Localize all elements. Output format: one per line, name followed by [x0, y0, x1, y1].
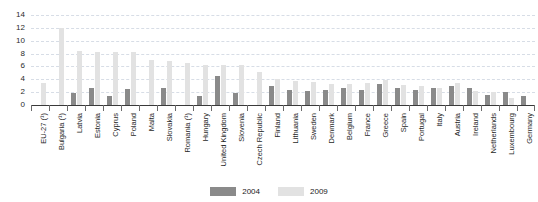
legend-item-2004[interactable]: 2004: [210, 187, 260, 196]
x-tick-label: Spain: [400, 113, 408, 132]
bar-2009: [185, 63, 190, 105]
legend-swatch-2004: [210, 187, 236, 196]
bar-2009: [401, 85, 406, 105]
bar-2009: [383, 80, 388, 105]
bar-2004: [449, 86, 454, 105]
x-tick-label: Denmark: [328, 113, 336, 143]
bar-group: [391, 15, 409, 105]
x-tick-mark: [211, 105, 212, 111]
x-axis-cell: Estonia: [85, 105, 103, 165]
bar-2009: [509, 98, 514, 105]
x-tick-label: United Kingdom: [220, 113, 228, 166]
x-axis-cell: Bulgaria (¹): [49, 105, 67, 165]
x-tick-label: Cyprus: [112, 113, 120, 137]
y-tick-label: 2: [21, 88, 25, 96]
x-tick-label: Estonia: [94, 113, 102, 138]
bar-group: [409, 15, 427, 105]
legend-item-2009[interactable]: 2009: [278, 187, 328, 196]
x-tick-mark: [409, 105, 410, 111]
x-axis-cell: France: [355, 105, 373, 165]
bar-2009: [491, 92, 496, 105]
x-axis-cell: Malta: [139, 105, 157, 165]
bar-group: [301, 15, 319, 105]
bar-group: [85, 15, 103, 105]
x-tick-label: Ireland: [472, 113, 480, 136]
bar-2004: [413, 90, 418, 105]
x-tick-label: EU-27 (¹): [40, 113, 48, 144]
bar-2004: [197, 96, 202, 105]
x-tick-label: Latvia: [76, 113, 84, 133]
bar-2004: [323, 90, 328, 105]
bar-2004: [89, 88, 94, 105]
bar-group: [265, 15, 283, 105]
bar-group: [139, 15, 157, 105]
bar-group: [319, 15, 337, 105]
x-axis-cell: EU-27 (¹): [31, 105, 49, 165]
x-tick-label: Bulgaria (¹): [58, 113, 66, 150]
x-axis-cell: Germany: [517, 105, 535, 165]
bar-2004: [71, 93, 76, 105]
x-tick-label: Sweden: [310, 113, 318, 140]
bar-2009: [149, 60, 154, 105]
bar-series-container: [31, 15, 535, 105]
bar-2009: [329, 84, 334, 105]
bar-group: [463, 15, 481, 105]
x-tick-label: Belgium: [346, 113, 354, 140]
x-tick-mark: [229, 105, 230, 111]
bar-2009: [419, 86, 424, 105]
y-tick-label: 12: [16, 24, 25, 32]
bar-group: [31, 15, 49, 105]
x-axis-cell: United Kingdom: [211, 105, 229, 165]
bar-chart: 02468101214 EU-27 (¹)Bulgaria (¹)LatviaE…: [0, 0, 538, 202]
bar-2009: [239, 65, 244, 105]
x-tick-mark: [427, 105, 428, 111]
x-axis-cell: Greece: [373, 105, 391, 165]
bar-2009: [257, 72, 262, 105]
x-tick-mark: [534, 105, 535, 111]
bar-2009: [365, 83, 370, 105]
x-tick-mark: [103, 105, 104, 111]
bar-group: [481, 15, 499, 105]
x-tick-label: Netherlands: [490, 113, 498, 153]
x-tick-mark: [283, 105, 284, 111]
legend-swatch-2009: [278, 187, 304, 196]
bar-2009: [455, 83, 460, 105]
x-tick-mark: [499, 105, 500, 111]
x-tick-mark: [445, 105, 446, 111]
y-tick-label: 8: [21, 50, 25, 58]
bar-2009: [59, 28, 64, 105]
bar-2009: [41, 83, 46, 106]
bar-group: [211, 15, 229, 105]
x-axis-cell: Romania (¹): [175, 105, 193, 165]
plot-area: [31, 15, 535, 105]
x-axis-cell: Cyprus: [103, 105, 121, 165]
bar-2004: [521, 96, 526, 105]
x-tick-mark: [139, 105, 140, 111]
x-axis-cell: Spain: [391, 105, 409, 165]
x-axis-cell: Slovenia: [229, 105, 247, 165]
x-tick-mark: [337, 105, 338, 111]
bar-2004: [215, 76, 220, 105]
x-tick-label: Czech Republic: [256, 113, 264, 166]
bar-2004: [503, 92, 508, 105]
bar-group: [157, 15, 175, 105]
legend-label-2009: 2009: [310, 188, 328, 196]
bar-2004: [107, 96, 112, 105]
bar-2009: [293, 81, 298, 105]
x-tick-label: Finland: [274, 113, 282, 138]
chart-legend: 2004 2009: [0, 187, 538, 196]
bar-2009: [347, 84, 352, 105]
x-tick-mark: [373, 105, 374, 111]
x-axis-cell: Poland: [121, 105, 139, 165]
bar-2004: [395, 88, 400, 105]
bar-2004: [377, 84, 382, 105]
bar-group: [517, 15, 535, 105]
x-axis-cell: Sweden: [301, 105, 319, 165]
bar-group: [67, 15, 85, 105]
y-tick-label: 4: [21, 75, 25, 83]
x-tick-label: Portugal: [418, 113, 426, 141]
bar-2004: [485, 95, 490, 105]
bar-group: [49, 15, 67, 105]
x-tick-label: Slovenia: [238, 113, 246, 142]
bar-group: [229, 15, 247, 105]
